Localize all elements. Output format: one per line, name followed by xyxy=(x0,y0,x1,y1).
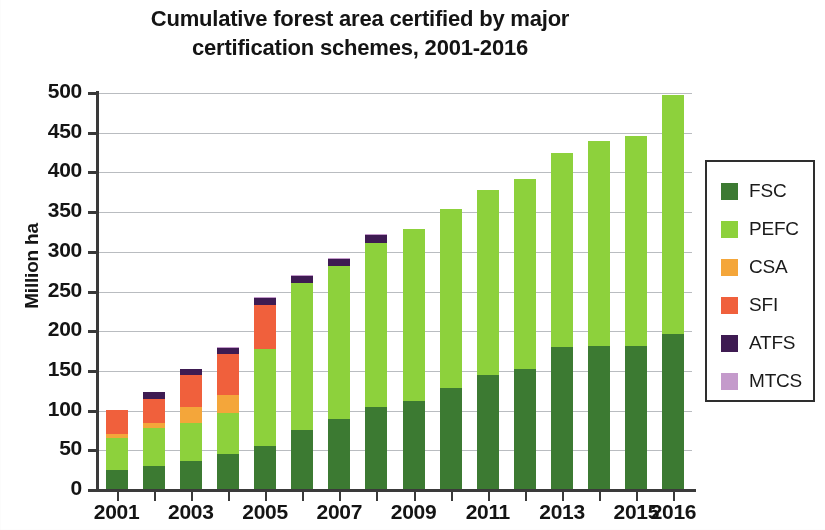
y-axis-tick-label: 0 xyxy=(26,476,82,500)
y-axis-tick-mark xyxy=(88,291,98,294)
x-axis-tick-label: 2005 xyxy=(230,500,300,524)
bar-2015[interactable] xyxy=(625,136,647,490)
bar-2003[interactable] xyxy=(180,369,202,490)
bar-segment-pefc xyxy=(291,283,313,431)
legend-swatch-icon xyxy=(721,373,738,390)
legend-item-label: ATFS xyxy=(749,332,795,354)
bar-2006[interactable] xyxy=(291,275,313,490)
y-axis-tick-labels: 050100150200250300350400450500 xyxy=(18,0,82,530)
bar-segment-fsc xyxy=(180,461,202,490)
bar-2002[interactable] xyxy=(143,392,165,490)
gridline xyxy=(98,133,692,134)
legend-swatch-icon xyxy=(721,335,738,352)
legend-swatch-icon xyxy=(721,259,738,276)
chart-title-line-2: certification schemes, 2001-2016 xyxy=(40,33,680,62)
y-axis-tick-mark xyxy=(88,449,98,452)
legend-swatch-icon xyxy=(721,221,738,238)
x-axis-line xyxy=(96,489,696,492)
x-axis-tick-label: 2007 xyxy=(304,500,374,524)
bar-2005[interactable] xyxy=(254,297,276,490)
bar-2008[interactable] xyxy=(365,234,387,490)
legend-item-fsc[interactable]: FSC xyxy=(721,172,813,210)
x-axis-tick-label: 2011 xyxy=(453,500,523,524)
x-axis-tick-label: 2001 xyxy=(82,500,152,524)
bar-segment-pefc xyxy=(217,413,239,454)
bar-segment-fsc xyxy=(143,466,165,490)
legend-swatch-icon xyxy=(721,297,738,314)
bar-segment-pefc xyxy=(328,266,350,418)
chart-title-line-1: Cumulative forest area certified by majo… xyxy=(40,4,680,33)
bar-segment-fsc xyxy=(588,346,610,491)
bar-segment-pefc xyxy=(180,423,202,460)
bar-segment-pefc xyxy=(365,243,387,407)
gridline xyxy=(98,93,692,94)
y-axis-tick-mark xyxy=(88,410,98,413)
y-axis-tick-mark xyxy=(88,171,98,174)
bar-segment-sfi xyxy=(106,410,128,435)
y-axis-tick-label: 400 xyxy=(26,158,82,182)
bar-segment-fsc xyxy=(365,407,387,490)
chart-legend: FSCPEFCCSASFIATFSMTCS xyxy=(705,160,815,402)
bar-2016[interactable] xyxy=(662,95,684,490)
bar-segment-fsc xyxy=(106,470,128,490)
y-axis-tick-label: 50 xyxy=(26,436,82,460)
bar-segment-fsc xyxy=(625,346,647,490)
bar-2001[interactable] xyxy=(106,410,128,490)
bar-segment-fsc xyxy=(477,375,499,490)
bar-2007[interactable] xyxy=(328,258,350,490)
legend-item-label: SFI xyxy=(749,294,778,316)
bar-segment-csa xyxy=(180,407,202,423)
legend-item-csa[interactable]: CSA xyxy=(721,248,813,286)
y-axis-tick-label: 500 xyxy=(26,79,82,103)
bar-segment-csa xyxy=(217,395,239,413)
bar-segment-pefc xyxy=(254,349,276,446)
bar-segment-pefc xyxy=(440,209,462,388)
y-axis-tick-label: 100 xyxy=(26,397,82,421)
bar-segment-pefc xyxy=(625,136,647,346)
bar-segment-pefc xyxy=(477,190,499,375)
bar-segment-atfs xyxy=(254,298,276,305)
bar-segment-atfs xyxy=(291,276,313,283)
legend-item-label: MTCS xyxy=(749,370,802,392)
legend-item-mtcs[interactable]: MTCS xyxy=(721,362,813,400)
bar-segment-sfi xyxy=(217,354,239,394)
y-axis-tick-label: 350 xyxy=(26,198,82,222)
y-axis-tick-mark xyxy=(88,489,98,492)
bar-2004[interactable] xyxy=(217,347,239,490)
y-axis-tick-mark xyxy=(88,330,98,333)
bar-segment-fsc xyxy=(662,334,684,490)
bar-segment-fsc xyxy=(514,369,536,490)
bar-2009[interactable] xyxy=(403,229,425,490)
legend-item-label: CSA xyxy=(749,256,787,278)
y-axis-tick-mark xyxy=(88,92,98,95)
x-axis-tick-label: 2013 xyxy=(527,500,597,524)
plot-area xyxy=(98,93,692,490)
legend-item-atfs[interactable]: ATFS xyxy=(721,324,813,362)
bar-segment-pefc xyxy=(106,438,128,470)
x-axis-tick-label: 2003 xyxy=(156,500,226,524)
bar-2014[interactable] xyxy=(588,141,610,490)
bar-segment-fsc xyxy=(551,347,573,490)
x-axis-tick-label: 2016 xyxy=(638,500,708,524)
y-axis-tick-mark xyxy=(88,251,98,254)
bar-segment-fsc xyxy=(254,446,276,490)
bar-segment-pefc xyxy=(662,95,684,334)
y-axis-tick-label: 150 xyxy=(26,357,82,381)
bar-segment-fsc xyxy=(291,430,313,490)
bar-segment-pefc xyxy=(514,179,536,370)
legend-item-label: FSC xyxy=(749,180,786,202)
bar-2012[interactable] xyxy=(514,179,536,490)
y-axis-tick-label: 250 xyxy=(26,278,82,302)
x-axis-tick-label: 2009 xyxy=(379,500,449,524)
bar-segment-pefc xyxy=(403,229,425,401)
bar-2010[interactable] xyxy=(440,209,462,490)
bar-segment-fsc xyxy=(217,454,239,490)
y-axis-tick-label: 300 xyxy=(26,238,82,262)
y-axis-tick-label: 200 xyxy=(26,317,82,341)
bar-2013[interactable] xyxy=(551,153,573,490)
bar-segment-fsc xyxy=(440,388,462,490)
legend-item-pefc[interactable]: PEFC xyxy=(721,210,813,248)
bar-2011[interactable] xyxy=(477,190,499,490)
y-axis-tick-mark xyxy=(88,211,98,214)
legend-item-sfi[interactable]: SFI xyxy=(721,286,813,324)
